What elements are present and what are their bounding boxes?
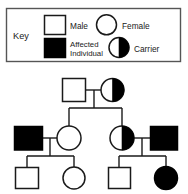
individual-I-1-male-unaffected[interactable] — [63, 79, 86, 102]
individual-III-1-male-unaffected[interactable] — [16, 168, 39, 189]
pedigree-canvas: Key Male Female Affected Individual Carr… — [0, 0, 188, 194]
individual-II-1-male-affected[interactable] — [15, 127, 43, 151]
individual-II-2-female-unaffected[interactable] — [57, 126, 81, 150]
individual-III-4-female-affected[interactable] — [155, 167, 178, 190]
key-symbol-female-circle-icon — [97, 15, 117, 35]
individual-III-2-female-unaffected[interactable] — [63, 167, 85, 189]
key-entry-affected-label-line1: Affected — [70, 40, 98, 49]
individual-III-3-male-unaffected[interactable] — [109, 168, 131, 189]
key-symbol-carrier-circle-icon — [109, 38, 129, 58]
individual-I-2-female-carrier[interactable] — [101, 79, 124, 102]
key-entry-female-label: Female — [122, 21, 150, 31]
key-entry-male-label: Male — [70, 21, 88, 31]
key-symbol-affected-square-icon — [45, 39, 66, 58]
pedigree-connector-lines — [27, 90, 166, 167]
individual-II-3-female-carrier[interactable] — [110, 126, 134, 150]
key-label: Key — [13, 31, 29, 41]
generation-III — [16, 167, 178, 190]
key-symbol-male-square-icon — [45, 16, 66, 35]
pedigree-figure: Key Male Female Affected Individual Carr… — [0, 0, 188, 194]
key-entry-affected-label-line2: Individual — [70, 49, 103, 58]
generation-II — [15, 126, 178, 150]
key-box: Key Male Female Affected Individual Carr… — [7, 9, 181, 62]
key-entry-carrier-label: Carrier — [134, 44, 160, 54]
individual-II-4-male-affected[interactable] — [151, 127, 178, 151]
